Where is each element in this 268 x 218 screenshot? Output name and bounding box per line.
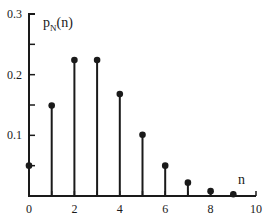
stem-marker — [26, 162, 33, 169]
x-tick-label: 2 — [71, 202, 77, 216]
stem-marker — [162, 162, 169, 169]
stem-marker — [230, 191, 237, 198]
y-tick-label: 0.1 — [7, 128, 22, 142]
y-tick-label: 0.2 — [7, 68, 22, 82]
stem-marker — [139, 131, 146, 138]
x-tick-label: 8 — [208, 202, 214, 216]
x-tick-label: 4 — [117, 202, 123, 216]
x-tick-label: 10 — [250, 202, 262, 216]
tick-labels: 02468100.10.20.3 — [7, 7, 262, 216]
stem-marker — [185, 179, 192, 186]
stem-marker — [117, 91, 124, 98]
x-tick-label: 0 — [26, 202, 32, 216]
stem-marker — [71, 57, 78, 64]
stem-marker — [48, 102, 55, 109]
x-axis-label: n — [238, 172, 245, 187]
y-axis-label: pN(n) — [43, 15, 73, 33]
stem-marker — [94, 57, 101, 64]
stems — [26, 57, 237, 198]
y-tick-label: 0.3 — [7, 7, 22, 21]
stem-chart: 02468100.10.20.3 pN(n) n — [0, 0, 268, 218]
stem-marker — [207, 188, 214, 195]
x-tick-label: 6 — [162, 202, 168, 216]
